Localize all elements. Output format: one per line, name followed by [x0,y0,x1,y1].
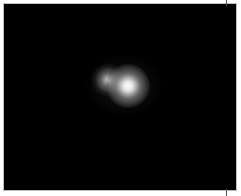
image-panel [3,3,237,191]
bright-spot [106,64,150,108]
tick-mark-top [226,0,227,6]
tick-mark-bottom [226,189,227,196]
